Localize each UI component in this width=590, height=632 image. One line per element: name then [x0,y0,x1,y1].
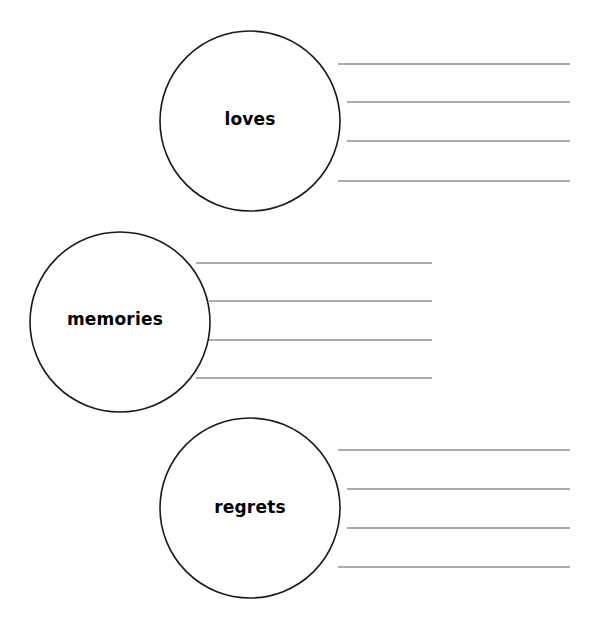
bubble-diagram: lovesmemoriesregrets [0,0,590,632]
bubble-label-loves: loves [224,109,275,129]
bubble-group-regrets: regrets [160,418,570,598]
bubble-label-regrets: regrets [214,497,286,517]
bubble-label-memories: memories [67,309,163,329]
bubble-group-loves: loves [160,31,570,211]
bubble-group-memories: memories [30,232,432,412]
worksheet-canvas: lovesmemoriesregrets [0,0,590,632]
